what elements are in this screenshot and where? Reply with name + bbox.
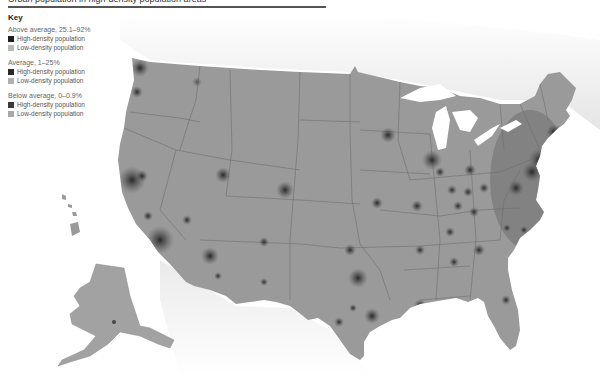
high-density-swatch-icon (8, 69, 14, 75)
hawaii (62, 194, 80, 236)
key-group-label: Average, 1–25% (8, 59, 118, 66)
key-item: Low-density population (8, 76, 118, 85)
key-group-below-average: Below average, 0–0.9% High-density popul… (8, 92, 118, 118)
key-item: High-density population (8, 100, 118, 109)
key-item-label: Low-density population (17, 77, 84, 84)
map-key: Key Above average, 25.1–92% High-density… (8, 13, 118, 125)
key-item: Low-density population (8, 43, 118, 52)
high-density-swatch-icon (8, 102, 14, 108)
key-item: Low-density population (8, 109, 118, 118)
alaska (58, 264, 174, 366)
low-density-swatch-icon (8, 45, 14, 51)
key-group-label: Below average, 0–0.9% (8, 92, 118, 99)
key-item-label: Low-density population (17, 44, 84, 51)
low-density-swatch-icon (8, 111, 14, 117)
key-item: High-density population (8, 34, 118, 43)
key-item-label: High-density population (17, 101, 85, 108)
low-density-swatch-icon (8, 78, 14, 84)
key-heading: Key (8, 13, 118, 22)
key-group-label: Above average, 25.1–92% (8, 26, 118, 33)
key-group-average: Average, 1–25% High-density population L… (8, 59, 118, 85)
high-density-swatch-icon (8, 36, 14, 42)
key-group-above-average: Above average, 25.1–92% High-density pop… (8, 26, 118, 52)
key-item-label: Low-density population (17, 110, 84, 117)
key-item: High-density population (8, 67, 118, 76)
key-item-label: High-density population (17, 35, 85, 42)
key-item-label: High-density population (17, 68, 85, 75)
